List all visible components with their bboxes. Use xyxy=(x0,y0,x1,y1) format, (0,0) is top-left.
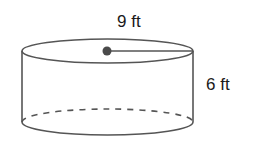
center-dot xyxy=(103,47,112,56)
height-label: 6 ft xyxy=(206,75,230,95)
radius-label: 9 ft xyxy=(117,12,141,32)
bottom-back-arc-dashed xyxy=(22,109,193,122)
cylinder-diagram: 9 ft 6 ft xyxy=(0,0,256,156)
bottom-front-arc xyxy=(22,122,193,135)
